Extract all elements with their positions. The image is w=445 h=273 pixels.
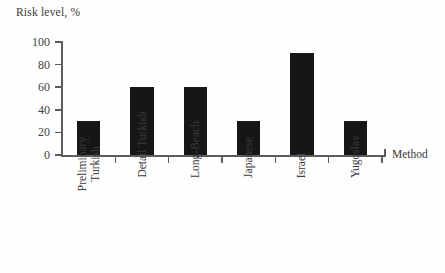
x-axis-tick — [221, 156, 223, 163]
x-axis-tick — [328, 156, 330, 163]
x-axis-category-label: Long-Beach — [169, 163, 222, 269]
x-axis-category-label: Yugoslav — [329, 163, 382, 269]
y-axis-tick — [55, 64, 62, 66]
plot-area — [62, 42, 382, 155]
y-axis-tick — [55, 109, 62, 111]
y-axis-tick-label: 60 — [0, 80, 50, 95]
y-axis-tick-label: 80 — [0, 57, 50, 72]
x-axis-category-label: PreliminaryTurkish — [62, 163, 115, 269]
x-axis-tick — [381, 156, 383, 163]
x-axis-category-label-text: Israel — [295, 152, 308, 178]
x-axis-category-label: Japanese — [222, 163, 275, 269]
x-axis-category-label-text: Japanese — [242, 137, 255, 178]
bar — [290, 53, 313, 155]
bar-chart-figure: Risk level, % 020406080100 PreliminaryTu… — [0, 0, 445, 273]
x-axis-category-label: Detail Turkish — [115, 163, 168, 269]
y-axis-tick — [55, 86, 62, 88]
x-axis-tick — [168, 156, 170, 163]
x-axis-line — [61, 155, 386, 157]
x-axis-category-label-text: PreliminaryTurkish — [76, 137, 102, 191]
y-axis-tick-label: 20 — [0, 125, 50, 140]
x-axis-end-tick — [384, 149, 386, 156]
y-axis-tick-label: 40 — [0, 102, 50, 117]
x-axis-tick — [275, 156, 277, 163]
y-axis-title: Risk level, % — [16, 6, 80, 18]
x-axis-category-label-text: Yugoslav — [349, 135, 362, 178]
x-axis-category-label-text: Detail Turkish — [135, 112, 148, 178]
y-axis-tick — [55, 41, 62, 43]
x-axis-category-label: Israel — [275, 163, 328, 269]
y-axis-tick — [55, 154, 62, 156]
x-axis-category-label-text: Long-Beach — [189, 121, 202, 178]
y-axis-tick — [55, 132, 62, 134]
x-axis-tick — [115, 156, 117, 163]
y-axis-tick-label: 0 — [0, 148, 50, 163]
y-axis-tick-label: 100 — [0, 35, 50, 50]
x-axis-title: Method — [392, 148, 428, 160]
x-axis-category-labels: PreliminaryTurkishDetail TurkishLong-Bea… — [62, 163, 382, 271]
